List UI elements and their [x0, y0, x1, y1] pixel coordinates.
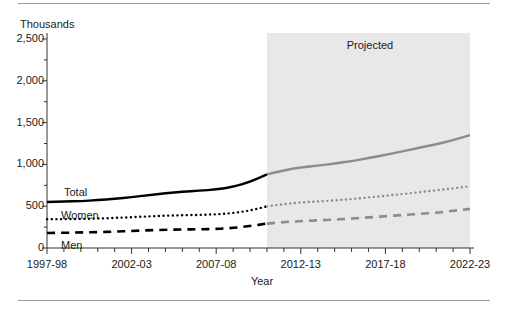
y-axis-tick-label: 500	[0, 200, 44, 211]
y-axis-tick-label: 0	[0, 242, 44, 253]
x-axis-tick-label: 2007-08	[181, 259, 251, 270]
y-axis-tick-label: 1,000	[0, 158, 44, 169]
plot-area: Projected 05001,0001,5002,0002,500 1997-…	[0, 0, 505, 310]
projected-shading-group	[267, 33, 470, 248]
series-label-total: Total	[64, 187, 87, 198]
x-axis-title: Year	[222, 276, 302, 287]
x-axis-tick-label: 2017-18	[350, 259, 420, 270]
series-label-men: Men	[61, 240, 82, 251]
x-axis-tick-label: 2012-13	[266, 259, 336, 270]
x-axis-tick-label: 2022-23	[435, 259, 505, 270]
projected-region-shading	[267, 33, 470, 248]
y-axis-tick-label: 2,000	[0, 75, 44, 86]
y-axis-tick-label: 1,500	[0, 117, 44, 128]
figure-container: Thousands Projected 05001,0001,5002,0002…	[0, 0, 505, 310]
series-label-women: Women	[61, 210, 99, 221]
series-line-men-actual	[47, 224, 267, 233]
x-axis-tick-label: 1997-98	[12, 259, 82, 270]
y-axis-tick-label: 2,500	[0, 33, 44, 44]
projected-region-label: Projected	[310, 40, 430, 51]
x-axis-tick-label: 2002-03	[97, 259, 167, 270]
